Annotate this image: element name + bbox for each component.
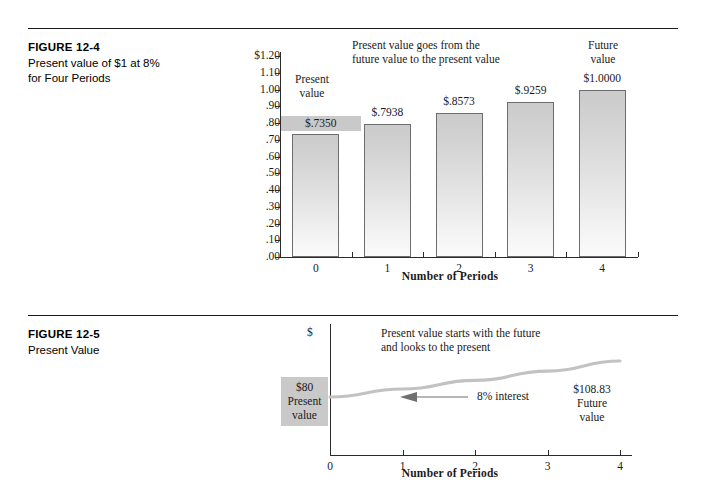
- chart1-x-axis: [280, 257, 638, 258]
- chart1-y-tick: [275, 56, 280, 57]
- chart2-x-tick: [620, 450, 621, 455]
- chart2-x-axis-title: Number of Periods: [300, 467, 600, 479]
- chart2-plot-area: 01234: [0, 300, 705, 495]
- chart1-x-tick: [352, 252, 353, 257]
- chart1-y-tick: [275, 90, 280, 91]
- chart2-x-tick: [548, 450, 549, 455]
- chart1-y-tick: [275, 157, 280, 158]
- chart2-y-axis: [330, 324, 331, 455]
- chart1-x-tick: [495, 252, 496, 257]
- chart1-y-tick: [275, 106, 280, 107]
- chart1-y-axis: [280, 52, 281, 258]
- chart1-y-tick: [275, 240, 280, 241]
- figures-page: FIGURE 12-4 Present value of $1 at 8% fo…: [0, 0, 705, 495]
- chart2-x-axis: [330, 455, 632, 456]
- chart1-plot-area: $.73500$.79381$.85732$.92593$1.00004: [0, 0, 705, 300]
- chart1-y-tick: [275, 123, 280, 124]
- chart1-bar: [292, 134, 339, 257]
- chart1-bar: [507, 102, 554, 257]
- chart2-x-tick: [403, 450, 404, 455]
- chart2-x-tick-label: 4: [605, 460, 635, 472]
- chart1-x-tick: [638, 252, 639, 257]
- chart1-y-tick: [275, 224, 280, 225]
- chart1-bar: [364, 124, 411, 257]
- chart2-x-tick: [475, 450, 476, 455]
- chart1-bar-value-label: $.7350: [281, 116, 361, 131]
- chart1-x-tick: [423, 252, 424, 257]
- bar-chart-present-value: Present value goes from the future value…: [0, 0, 705, 300]
- chart1-x-tick: [280, 252, 281, 257]
- chart1-bar-value-label: $.7938: [352, 106, 422, 118]
- chart1-y-tick: [275, 140, 280, 141]
- chart1-y-tick: [275, 173, 280, 174]
- chart1-bar-value-label: $.9259: [496, 84, 566, 96]
- chart1-bar-value-label: $1.0000: [567, 72, 637, 84]
- chart1-y-tick: [275, 257, 280, 258]
- chart1-y-tick: [275, 190, 280, 191]
- chart2-x-tick: [330, 450, 331, 455]
- chart1-x-axis-title: Number of Periods: [300, 270, 600, 282]
- chart1-bar: [436, 113, 483, 257]
- line-chart-present-value: $ Present value starts with the future a…: [0, 300, 705, 495]
- chart1-y-tick: [275, 207, 280, 208]
- chart1-bar-value-label: $.8573: [424, 95, 494, 107]
- chart2-growth-curve: [0, 300, 705, 495]
- chart1-x-tick: [566, 252, 567, 257]
- chart1-y-tick: [275, 73, 280, 74]
- chart1-bar: [579, 90, 626, 258]
